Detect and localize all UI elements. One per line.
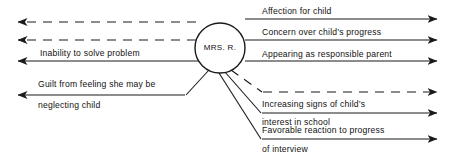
label-favorable-reaction-to-progress-line2: of interview: [262, 144, 308, 154]
connector-lines: [186, 70, 262, 139]
label-increasing-signs-of-childs-interest-line1: Increasing signs of child’s: [262, 99, 365, 109]
force-field-diagram: MRS. R. Affection for child Concern over…: [0, 0, 454, 165]
label-concern-over-childs-progress: Concern over child’s progress: [262, 27, 381, 37]
connector-dashed-right: [231, 70, 262, 92]
connector-increasing-signs: [225, 72, 261, 113]
center-label: MRS. R.: [196, 43, 244, 52]
connector-guilt: [186, 70, 209, 95]
label-appearing-as-responsible-parent: Appearing as responsible parent: [262, 49, 392, 59]
label-guilt-from-feeling-line2: neglecting child: [38, 100, 100, 110]
label-favorable-reaction-to-progress-line1: Favorable reaction to progress: [262, 125, 385, 135]
label-guilt-from-feeling-line1: Guilt from feeling she may be: [38, 79, 156, 89]
label-affection-for-child: Affection for child: [262, 6, 332, 16]
label-inability-to-solve-problem: Inability to solve problem: [40, 48, 140, 58]
